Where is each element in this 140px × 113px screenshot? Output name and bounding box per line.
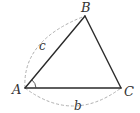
vertex-label-b: B <box>80 0 91 15</box>
vertex-label-a: A <box>11 82 21 97</box>
side-label-b: b <box>74 99 82 113</box>
side-b-dashed-arc <box>25 88 121 106</box>
angle-a-mark <box>32 80 36 88</box>
vertex-label-c: C <box>124 84 134 99</box>
triangle-diagram: A B C c b <box>0 0 140 113</box>
side-bc <box>85 16 121 88</box>
side-label-c: c <box>39 39 46 53</box>
